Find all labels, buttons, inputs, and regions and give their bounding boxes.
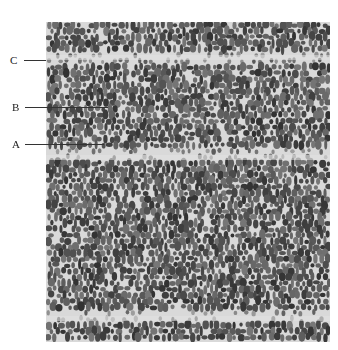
- leader-line-a: [25, 144, 104, 145]
- label-a: A: [12, 138, 20, 150]
- leader-line-b: [25, 107, 108, 108]
- label-c: C: [10, 54, 17, 66]
- micrograph-image: [46, 22, 330, 342]
- label-b: B: [12, 101, 19, 113]
- leader-line-c: [24, 60, 46, 61]
- cell-texture: [46, 22, 330, 342]
